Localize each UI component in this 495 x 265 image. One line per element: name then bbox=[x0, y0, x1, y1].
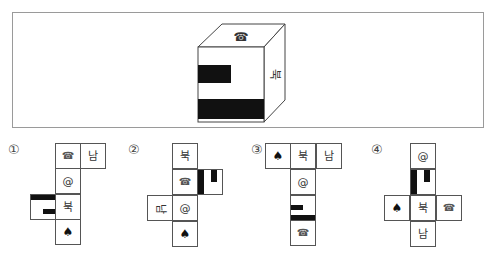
net-cell: 남 bbox=[147, 195, 173, 221]
cell-text: @ bbox=[298, 177, 309, 188]
black-bar bbox=[424, 170, 430, 182]
spade-icon: ♠ bbox=[392, 202, 403, 214]
net-cell: 북 bbox=[172, 143, 198, 169]
cell-text: @ bbox=[180, 203, 191, 214]
spade-icon: ♠ bbox=[63, 226, 74, 238]
net-cell: 북 bbox=[290, 143, 316, 169]
cell-text: 북 bbox=[418, 203, 428, 214]
net-cell: ☎ bbox=[290, 220, 316, 246]
net-cell: @ bbox=[290, 169, 316, 195]
net-cell: @ bbox=[172, 195, 198, 221]
option-4-label[interactable]: ④ bbox=[371, 143, 383, 157]
telephone-icon: ☎ bbox=[62, 151, 74, 161]
net-cell: 남 bbox=[316, 143, 342, 169]
black-bar bbox=[43, 209, 55, 214]
cell-text: 북 bbox=[63, 202, 73, 213]
net-cell: ♠ bbox=[55, 219, 81, 245]
front-black-bar-bottom bbox=[198, 99, 264, 119]
front-black-bar-top bbox=[198, 65, 231, 83]
telephone-icon: ☎ bbox=[443, 203, 455, 213]
net-cell-black-pattern bbox=[410, 169, 436, 195]
cell-text: @ bbox=[418, 151, 429, 162]
option-2-label[interactable]: ② bbox=[128, 143, 140, 157]
cell-text: 북 bbox=[180, 151, 190, 162]
black-bar bbox=[291, 205, 303, 210]
option-3-label[interactable]: ③ bbox=[251, 143, 263, 157]
net-cell: 남 bbox=[410, 221, 436, 247]
black-bar bbox=[411, 170, 417, 194]
net-cell: ☎ bbox=[55, 143, 81, 169]
cell-text: 남 bbox=[155, 203, 166, 213]
cell-text: @ bbox=[63, 176, 74, 187]
spade-icon: ♠ bbox=[180, 228, 191, 240]
net-cell-black-pattern bbox=[290, 195, 316, 221]
black-bar bbox=[211, 170, 217, 182]
net-cell: ☎ bbox=[436, 195, 462, 221]
net-cell: 북 bbox=[55, 194, 81, 220]
net-cell: 북 bbox=[410, 195, 436, 221]
telephone-icon: ☎ bbox=[179, 177, 191, 187]
net-cell: @ bbox=[55, 168, 81, 194]
net-cell-black-pattern bbox=[197, 169, 223, 195]
net-cell: ♠ bbox=[265, 143, 291, 169]
cube-figure: ☎ 북 bbox=[0, 0, 495, 135]
telephone-icon: ☎ bbox=[297, 228, 309, 238]
option-1-label[interactable]: ① bbox=[8, 143, 20, 157]
cell-text: 남 bbox=[418, 229, 428, 240]
spade-icon: ♠ bbox=[273, 150, 284, 162]
net-cell: ♠ bbox=[172, 221, 198, 247]
black-bar bbox=[31, 195, 55, 200]
telephone-icon: ☎ bbox=[234, 30, 249, 44]
cube-side-text-buk: 북 bbox=[268, 69, 282, 80]
net-cell: @ bbox=[410, 143, 436, 169]
cell-text: 남 bbox=[324, 151, 334, 162]
net-cell: ♠ bbox=[384, 195, 410, 221]
black-bar bbox=[198, 170, 204, 194]
net-cell: 남 bbox=[80, 143, 106, 169]
net-cell-black-pattern bbox=[30, 194, 56, 220]
cell-text: 북 bbox=[298, 151, 308, 162]
net-cell: ☎ bbox=[172, 169, 198, 195]
cell-text: 남 bbox=[88, 151, 98, 162]
